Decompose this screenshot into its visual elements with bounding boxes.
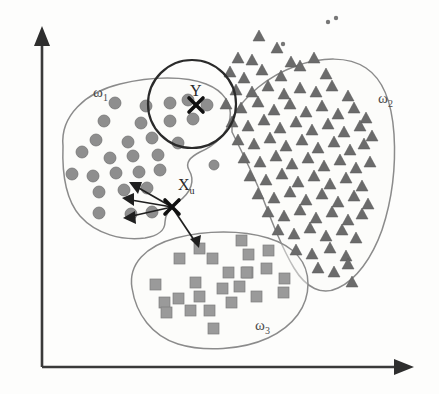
data-point (90, 134, 102, 146)
data-point (93, 207, 105, 219)
data-point (232, 52, 244, 63)
point-xu-label-symbol: X (178, 176, 190, 193)
data-point (246, 54, 258, 65)
data-point (173, 293, 184, 304)
data-point (208, 323, 219, 334)
omega-2-label-symbol: ω (378, 90, 388, 106)
data-point (104, 152, 116, 164)
data-point (204, 305, 215, 316)
omega-3-label-symbol: ω (255, 317, 265, 333)
data-point (261, 263, 272, 274)
data-point (308, 52, 320, 63)
data-point (133, 166, 145, 178)
data-point (122, 136, 134, 148)
data-point (161, 307, 172, 318)
data-point (251, 291, 262, 302)
data-point (140, 100, 152, 112)
data-point (256, 64, 268, 75)
data-point (243, 249, 254, 260)
data-point (223, 267, 234, 278)
data-point (135, 117, 147, 129)
data-point (234, 281, 245, 292)
data-point (190, 277, 201, 288)
x-axis-arrowhead (394, 359, 414, 375)
data-point (66, 168, 78, 180)
data-point (207, 253, 218, 264)
data-point (326, 20, 330, 24)
data-point (159, 297, 170, 308)
point-y-label-symbol: Y (190, 82, 202, 99)
cluster-scatter-figure: ω1 ω2 ω3 Y Xu (0, 0, 439, 394)
data-point (76, 146, 88, 158)
data-point (226, 297, 237, 308)
data-point (164, 115, 176, 127)
data-point (236, 235, 247, 246)
data-point (187, 113, 199, 125)
data-point (109, 97, 121, 109)
data-point (194, 291, 205, 302)
data-point (334, 16, 338, 20)
y-axis-arrowhead (34, 26, 50, 46)
data-point (87, 170, 99, 182)
omega-1-label-subscript: 1 (103, 92, 108, 103)
data-point (201, 99, 213, 111)
data-point (93, 186, 105, 198)
omega-1-label-symbol: ω (93, 84, 103, 100)
diagram-canvas: ω1 ω2 ω3 Y Xu (0, 0, 439, 394)
data-point (152, 149, 164, 161)
data-point (253, 30, 265, 41)
point-xu-label-subscript: u (190, 185, 195, 196)
data-point (174, 253, 185, 264)
data-point (154, 164, 166, 176)
data-point (146, 132, 158, 144)
data-point (209, 160, 219, 170)
data-point (263, 245, 274, 256)
omega-3-label-subscript: 3 (265, 325, 270, 336)
data-point (118, 184, 130, 196)
data-point (285, 56, 297, 67)
data-point (185, 305, 196, 316)
data-point (279, 273, 290, 284)
data-point (217, 283, 228, 294)
data-point (164, 97, 176, 109)
omega-2-label-subscript: 2 (388, 98, 393, 109)
data-point (110, 167, 122, 179)
data-point (238, 72, 250, 83)
point-y-label: Y (190, 82, 202, 99)
data-point (241, 267, 252, 278)
data-point (150, 279, 161, 290)
data-point (127, 150, 139, 162)
data-point (98, 115, 110, 127)
data-point (278, 287, 289, 298)
data-point (281, 42, 285, 46)
